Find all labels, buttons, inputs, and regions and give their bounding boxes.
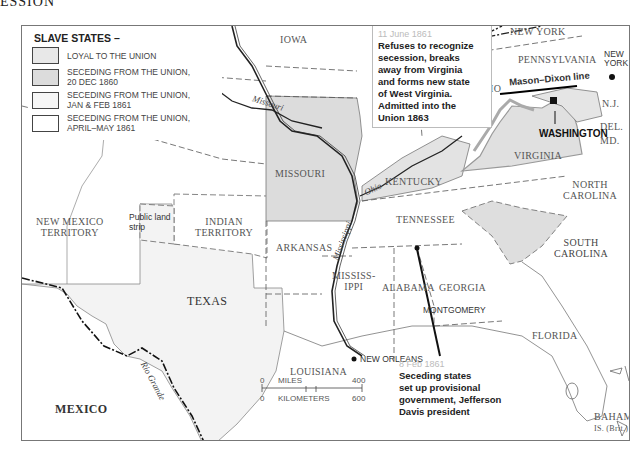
callout-montgomery: 8 Feb 1861 Seceding states set up provis… xyxy=(394,356,534,421)
legend-item-apr-may-1861: SECEDING FROM THE UNION,APRIL–MAY 1861 xyxy=(32,113,222,133)
south-carolina-region xyxy=(462,201,567,264)
label-new-york-state: NEW YORK xyxy=(510,26,565,37)
scale-bar xyxy=(262,384,362,392)
label-virginia: VIRGINIA xyxy=(514,150,562,161)
legend-swatch xyxy=(32,47,59,64)
label-arkansas: ARKANSAS xyxy=(276,242,332,253)
iowa-border xyxy=(266,66,357,98)
new-orleans-marker xyxy=(352,357,357,362)
legend-label: SECEDING FROM THE UNION,APRIL–MAY 1861 xyxy=(67,113,190,133)
callout-text: Seceding states set up provisional gover… xyxy=(399,370,529,418)
legend-heading: SLAVE STATES – xyxy=(34,32,222,44)
label-missouri: MISSOURI xyxy=(275,168,325,179)
label-mexico: MEXICO xyxy=(55,404,107,415)
callout-date: 11 June 1861 xyxy=(378,29,486,40)
label-florida: FLORIDA xyxy=(532,330,577,341)
scale-miles-label: MILES xyxy=(278,376,302,385)
label-mississippi: MISSISS-IPPI xyxy=(332,270,376,292)
label-georgia: GEORGIA xyxy=(439,282,486,293)
legend-item-dec-1860: SECEDING FROM THE UNION,20 DEC 1860 xyxy=(32,67,222,87)
label-indian-territory: INDIANTERRITORY xyxy=(195,216,253,238)
tn-ms-border xyxy=(352,244,462,248)
label-kentucky: KENTUCKY xyxy=(385,176,442,187)
montgomery-pointer xyxy=(417,249,440,356)
legend-label: LOYAL TO THE UNION xyxy=(67,51,156,61)
city-montgomery: MONTGOMERY xyxy=(423,305,486,315)
washington-marker xyxy=(550,97,557,104)
city-new-york: NEWYORK xyxy=(604,50,628,68)
city-washington: WASHINGTON xyxy=(539,128,608,139)
label-nj: N.J. xyxy=(602,98,619,109)
legend-swatch xyxy=(32,69,59,86)
scale-km-end: 600 xyxy=(352,394,365,403)
label-public-land-strip: Public landstrip xyxy=(129,212,171,232)
label-bahamas: BAHAMAIS. (Brit.) xyxy=(594,411,630,434)
label-tennessee: TENNESSEE xyxy=(396,214,455,225)
legend-item-jan-feb-1861: SECEDING FROM THE UNION,JAN & FEB 1861 xyxy=(32,90,222,110)
legend-swatch xyxy=(32,92,59,109)
legend: SLAVE STATES – LOYAL TO THE UNION SECEDI… xyxy=(30,26,222,140)
montgomery-marker xyxy=(415,246,420,251)
scale-miles-start: 0 xyxy=(260,376,264,385)
legend-label: SECEDING FROM THE UNION,JAN & FEB 1861 xyxy=(67,90,190,110)
label-south-carolina: SOUTHCAROLINA xyxy=(554,237,608,259)
callout-date: 8 Feb 1861 xyxy=(399,359,529,370)
scale-km-start: 0 xyxy=(260,394,264,403)
fl-ga-border xyxy=(434,321,502,326)
new-york-marker xyxy=(609,74,615,80)
legend-item-loyal: LOYAL TO THE UNION xyxy=(32,47,222,64)
legend-swatch xyxy=(32,115,59,132)
legend-label: SECEDING FROM THE UNION,20 DEC 1860 xyxy=(67,67,190,87)
callout-west-virginia: 11 June 1861 Refuses to recognize secess… xyxy=(372,26,492,128)
label-iowa: IOWA xyxy=(280,34,307,45)
label-new-mexico-territory: NEW MEXICOTERRITORY xyxy=(36,216,104,238)
label-north-carolina: NORTHCAROLINA xyxy=(563,179,617,201)
scale-km-label: KILOMETERS xyxy=(278,394,330,403)
label-alabama: ALABAMA xyxy=(382,282,435,293)
scale-miles-end: 400 xyxy=(352,376,365,385)
label-texas: TEXAS xyxy=(187,296,227,307)
map-frame: SLAVE STATES – LOYAL TO THE UNION SECEDI… xyxy=(21,25,630,441)
lake-okeechobee xyxy=(566,383,578,399)
callout-text: Refuses to recognize secession, breaks a… xyxy=(378,40,486,124)
page-title-fragment: ESSION xyxy=(0,0,55,10)
label-pennsylvania: PENNSYLVANIA xyxy=(518,54,597,65)
